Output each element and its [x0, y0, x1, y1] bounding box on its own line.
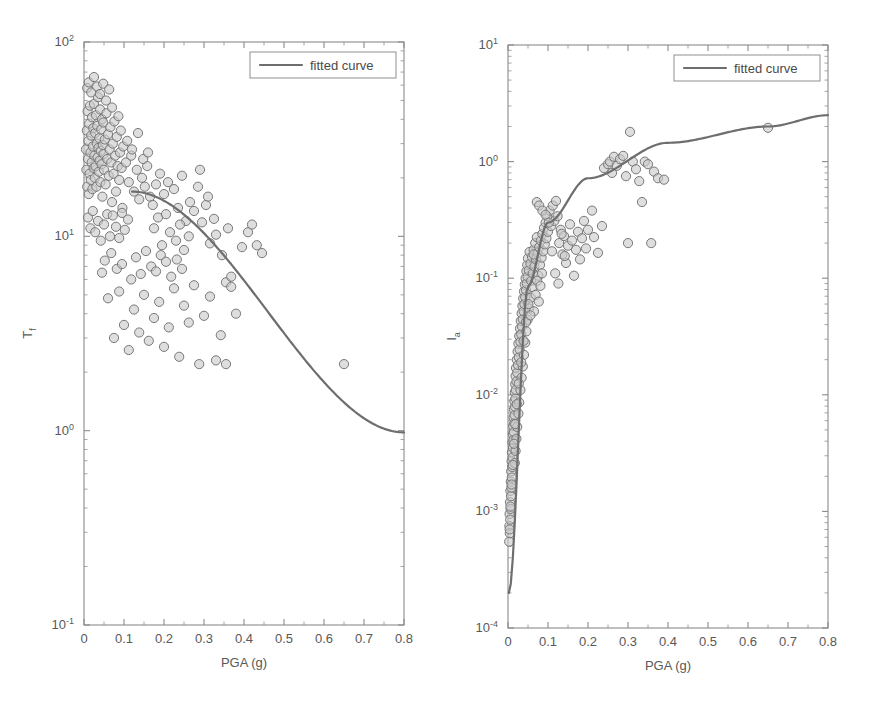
scatter-point	[203, 192, 212, 201]
x-tick-label: 0.5	[699, 634, 717, 649]
x-axis-tick-labels: 00.10.20.30.40.50.60.70.8	[504, 634, 837, 649]
scatter-point	[159, 342, 168, 351]
scatter-point	[103, 294, 112, 303]
x-tick-label: 0.4	[659, 634, 677, 649]
scatter-point	[659, 175, 668, 184]
scatter-point	[623, 239, 632, 248]
y-tick-label: 102	[55, 33, 74, 49]
scatter-point	[569, 271, 578, 280]
legend: fitted curve	[674, 55, 820, 81]
scatter-point	[127, 275, 136, 284]
scatter-point	[151, 267, 160, 276]
x-tick-label: 0.7	[355, 631, 373, 646]
scatter-point	[536, 281, 545, 290]
scatter-point	[227, 272, 236, 281]
fitted-curve	[132, 192, 404, 433]
scatter-point	[96, 236, 105, 245]
scatter-point	[577, 234, 586, 243]
scatter-point	[211, 230, 220, 239]
fitted-curve	[509, 115, 828, 593]
scatter-point	[155, 297, 164, 306]
scatter-point	[221, 360, 230, 369]
y-axis-tick-labels: 10-410-310-210-1100101	[476, 36, 498, 635]
scatter-point	[199, 311, 208, 320]
scatter-point	[581, 244, 590, 253]
y-tick-label: 101	[55, 227, 74, 243]
y-axis-label-text: Ia	[444, 332, 462, 341]
y-tick-label: 100	[55, 422, 74, 438]
scatter-point	[175, 352, 184, 361]
scatter-point	[91, 228, 100, 237]
scatter-point	[159, 189, 168, 198]
x-tick-label: 0.2	[155, 631, 173, 646]
scatter-point	[119, 320, 128, 329]
scatter-point	[97, 268, 106, 277]
scatter-point	[165, 228, 174, 237]
y-tick-label: 10-2	[476, 386, 498, 402]
x-axis-ticks	[84, 42, 404, 625]
x-tick-label: 0.8	[819, 634, 837, 649]
scatter-point	[631, 165, 640, 174]
scatter-point	[144, 336, 153, 345]
y-tick-label: 100	[479, 153, 498, 169]
scatter-point	[177, 171, 186, 180]
scatter-point	[567, 236, 576, 245]
scatter-point	[579, 216, 588, 225]
scatter-point	[189, 281, 198, 290]
scatter-point	[105, 85, 114, 94]
scatter-point	[227, 282, 236, 291]
scatter-point	[551, 269, 560, 278]
scatter-point	[135, 328, 144, 337]
scatter-point	[185, 198, 194, 207]
scatter-point	[216, 331, 225, 340]
scatter-point	[195, 165, 204, 174]
scatter-point	[621, 172, 630, 181]
scatter-point	[593, 248, 602, 257]
scatter-point	[115, 233, 124, 242]
scatter-point	[557, 229, 566, 238]
scatter-point	[193, 182, 202, 191]
y-axis-label: Ia	[444, 332, 462, 341]
legend-label: fitted curve	[734, 61, 798, 76]
scatter-point	[551, 196, 560, 205]
scatter-point	[132, 165, 141, 174]
x-tick-label: 0.6	[315, 631, 333, 646]
axes-frame	[84, 42, 404, 625]
scatter-point	[179, 301, 188, 310]
scatter-point	[508, 460, 517, 469]
scatter-point	[139, 290, 148, 299]
scatter-point	[169, 284, 178, 293]
scatter-point	[554, 279, 563, 288]
scatter-points	[81, 72, 348, 368]
x-tick-label: 0.8	[395, 631, 413, 646]
scatter-point	[99, 220, 108, 229]
scatter-point	[575, 255, 584, 264]
scatter-point	[123, 136, 132, 145]
y-axis-label: Tf	[20, 328, 38, 339]
y-axis-ticks	[84, 42, 404, 625]
scatter-point	[137, 173, 146, 182]
scatter-point	[637, 197, 646, 206]
scatter-point	[101, 180, 110, 189]
y-axis-label-text: Tf	[20, 328, 38, 339]
scatter-point	[129, 305, 138, 314]
x-tick-label: 0.7	[779, 634, 797, 649]
legend-label: fitted curve	[310, 58, 374, 73]
scatter-point	[565, 220, 574, 229]
scatter-point	[149, 313, 158, 322]
plot-area-right: 00.10.20.30.40.50.60.70.8PGA (g)10-410-3…	[444, 36, 837, 673]
scatter-point	[223, 224, 232, 233]
scatter-point	[107, 103, 116, 112]
scatter-point	[506, 502, 515, 511]
scatter-point	[625, 127, 634, 136]
scatter-point	[115, 175, 124, 184]
scatter-point	[108, 211, 117, 220]
scatter-point	[505, 525, 514, 534]
scatter-point	[133, 128, 142, 137]
scatter-point	[149, 224, 158, 233]
scatter-point	[98, 192, 107, 201]
scatter-point	[211, 356, 220, 365]
scatter-point	[167, 272, 176, 281]
scatter-point	[507, 480, 516, 489]
scatter-point	[205, 292, 214, 301]
